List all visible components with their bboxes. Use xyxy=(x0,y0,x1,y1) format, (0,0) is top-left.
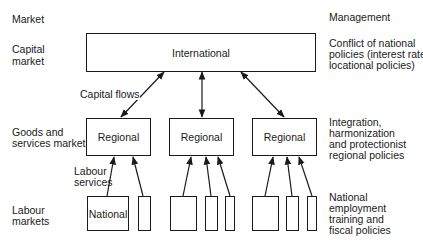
labour-node-3b xyxy=(286,196,299,231)
national-label: National xyxy=(89,208,128,220)
capital-flow-arrow-3 xyxy=(241,72,284,117)
labour-arrow-2c xyxy=(218,157,230,196)
regional-node-3: Regional xyxy=(252,118,317,156)
labour-arrow-3b xyxy=(287,157,292,196)
labour-node-1b xyxy=(138,196,151,231)
regional-label: Regional xyxy=(264,131,305,143)
labour-arrow-2a xyxy=(183,157,191,196)
labour-arrow-2b xyxy=(206,157,211,196)
capital-flows-label: Capital flows xyxy=(80,88,140,100)
international-node: International xyxy=(86,33,316,72)
labour-arrow-3c xyxy=(299,157,312,196)
labour-node-3c xyxy=(307,196,317,231)
labour-arrow-3a xyxy=(265,157,273,196)
labour-node-2c xyxy=(225,196,235,231)
regional-label: Regional xyxy=(181,131,222,143)
regional-label: Regional xyxy=(98,131,139,143)
regional-node-1: Regional xyxy=(86,118,151,156)
labour-node-2b xyxy=(205,196,218,231)
national-node: National xyxy=(87,196,129,231)
labour-node-2a xyxy=(170,196,197,231)
labour-node-3a xyxy=(252,196,279,231)
labour-arrow-1b xyxy=(133,157,143,196)
regional-node-2: Regional xyxy=(169,118,234,156)
international-label: International xyxy=(172,47,230,59)
